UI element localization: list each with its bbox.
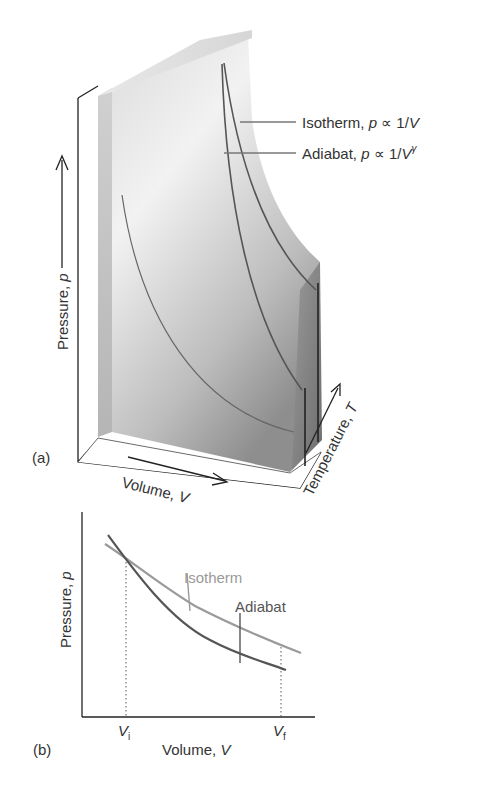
panel-b-tag: (b) [33, 741, 51, 758]
volume-axis-label-3d: Volume, V [120, 473, 192, 507]
pvt-surface [112, 36, 320, 472]
tick-vf: Vf [273, 722, 286, 742]
adiabat-label-3d: Adiabat, p ∝ 1/Vγ [302, 143, 417, 162]
adiabat-label-b: Adiabat [235, 598, 287, 615]
figure-svg: Isotherm, p ∝ 1/V Adiabat, p ∝ 1/Vγ Pres… [0, 0, 489, 795]
volume-axis-label-b: Volume, V [162, 741, 232, 758]
panel-a-tag: (a) [32, 449, 50, 466]
pressure-axis-3d: Pressure, p [54, 156, 71, 350]
pressure-axis-label-b: Pressure, p [57, 571, 74, 648]
panel-a-3d-surface [78, 30, 322, 488]
tick-vi: Vi [118, 722, 130, 742]
isotherm-label-b: Isotherm [184, 569, 242, 586]
pressure-axis-label-3d: Pressure, p [54, 273, 71, 350]
left-wall [98, 88, 112, 437]
isotherm-label-3d: Isotherm, p ∝ 1/V [302, 114, 421, 131]
pv-diagram-figure: Isotherm, p ∝ 1/V Adiabat, p ∝ 1/Vγ Pres… [0, 0, 489, 795]
